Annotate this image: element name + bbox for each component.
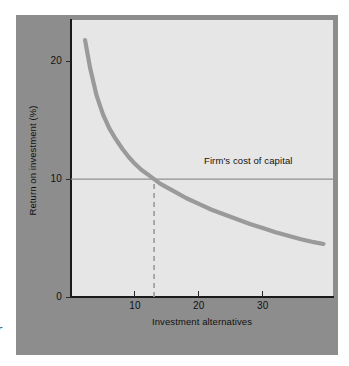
roi-curve [85,40,323,244]
figure-root: 10203001020 Firm's cost of capital Inves… [0,0,349,366]
y-axis-title: Return on investment (%) [27,71,38,251]
caption-fragment: r [0,322,2,334]
cost-of-capital-annotation-label: Firm's cost of capital [204,155,292,166]
plot-graphics [0,0,349,366]
x-axis-title: Investment alternatives [70,316,334,327]
